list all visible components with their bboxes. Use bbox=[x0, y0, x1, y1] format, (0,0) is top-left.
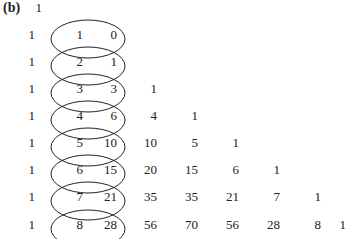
ellipse-overlay bbox=[0, 0, 351, 239]
grouping-ellipse bbox=[51, 182, 125, 220]
